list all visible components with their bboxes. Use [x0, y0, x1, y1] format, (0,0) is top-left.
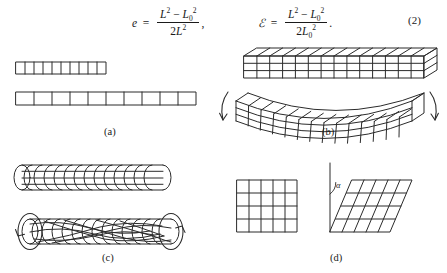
sheared-grid: [330, 163, 412, 232]
straight-beam: [244, 48, 437, 78]
caption-panel-d: (d): [330, 252, 342, 263]
stretched-bar: [16, 92, 196, 105]
panel-d-shear: [237, 163, 412, 232]
shear-angle-label: α: [336, 180, 341, 190]
caption-panel-c: (c): [102, 252, 114, 263]
helix-lines: [30, 220, 171, 243]
caption-panel-a: (a): [104, 126, 116, 137]
straight-cylinder: [14, 165, 171, 190]
moment-arrow-right: [430, 92, 438, 120]
square-grid: [237, 180, 297, 232]
moment-arrow-left: [220, 92, 228, 120]
figure-canvas: α: [0, 0, 447, 273]
caption-panel-b: (b): [322, 126, 334, 137]
panel-c-torsion: [14, 165, 185, 250]
panel-a-extension: [16, 62, 196, 105]
twisted-cylinder: [22, 219, 179, 244]
angle-arc: [330, 183, 336, 195]
short-bar: [16, 62, 106, 74]
